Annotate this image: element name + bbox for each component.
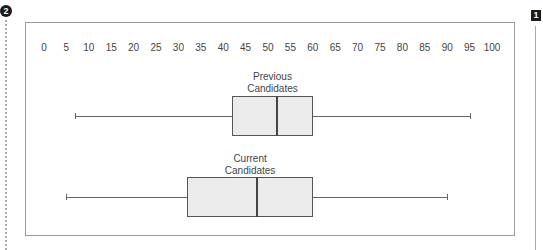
whisker-cap-min-previous (75, 113, 76, 119)
x-tick-label: 100 (484, 42, 501, 53)
x-tick-label: 55 (285, 42, 296, 53)
x-tick-label: 35 (195, 42, 206, 53)
iqr-box-previous (232, 96, 313, 136)
series-label-line: Candidates (225, 165, 276, 177)
series-label-current: Current Candidates (225, 153, 276, 177)
x-tick-label: 95 (464, 42, 475, 53)
x-tick-label: 80 (397, 42, 408, 53)
x-tick-label: 15 (106, 42, 117, 53)
x-tick-label: 50 (262, 42, 273, 53)
x-tick-label: 60 (307, 42, 318, 53)
x-tick-label: 5 (64, 42, 70, 53)
series-label-line: Current (225, 153, 276, 165)
x-tick-label: 40 (218, 42, 229, 53)
x-tick-label: 85 (419, 42, 430, 53)
solid-divider (535, 26, 536, 250)
whisker-cap-max-previous (470, 113, 471, 119)
callout-marker-2: 2 (0, 5, 12, 17)
x-tick-label: 45 (240, 42, 251, 53)
median-line-previous (276, 96, 278, 136)
x-tick-label: 30 (173, 42, 184, 53)
x-tick-label: 0 (41, 42, 47, 53)
series-label-line: Previous (247, 71, 298, 83)
x-tick-label: 65 (330, 42, 341, 53)
x-tick-label: 90 (442, 42, 453, 53)
median-line-current (256, 177, 258, 217)
dotted-divider (5, 20, 7, 250)
x-tick-label: 70 (352, 42, 363, 53)
x-tick-label: 75 (374, 42, 385, 53)
callout-marker-1: 1 (531, 10, 541, 21)
whisker-cap-max-current (447, 194, 448, 200)
series-label-previous: Previous Candidates (247, 71, 298, 95)
x-tick-label: 25 (150, 42, 161, 53)
x-tick-label: 20 (128, 42, 139, 53)
x-tick-label: 10 (83, 42, 94, 53)
series-label-line: Candidates (247, 83, 298, 95)
iqr-box-current (187, 177, 312, 217)
whisker-cap-min-current (66, 194, 67, 200)
